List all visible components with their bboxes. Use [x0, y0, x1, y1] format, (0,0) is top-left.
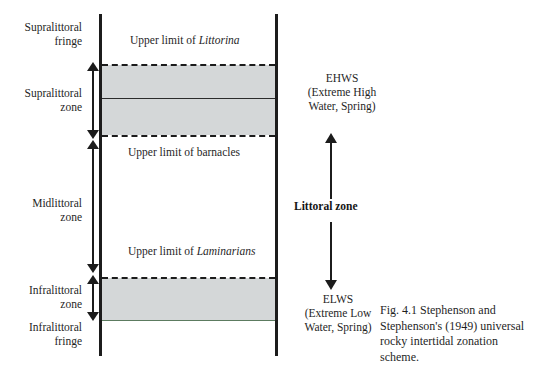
zone-label-infralittoral-zone-line2: zone [2, 297, 82, 311]
arrow-shaft [330, 142, 332, 199]
arrow-head-down-icon [87, 264, 99, 273]
arrow-shaft [92, 145, 94, 268]
zone-label-midlittoral-zone: Midlittoral zone [2, 196, 82, 224]
limit-laminarians-taxon: Laminarians [197, 245, 256, 257]
band-infralittoral [102, 278, 275, 320]
boundary-infralittoral-base [102, 320, 275, 321]
zone-label-infralittoral-zone: Infralittoral zone [2, 283, 82, 311]
label-upper-limit-littorina: Upper limit of Littorina [130, 34, 240, 46]
annotation-elws: ELWS (Extreme Low Water, Spring) [288, 292, 388, 334]
zone-label-midlittoral-zone-line2: zone [2, 210, 82, 224]
arrow-head-down-icon [87, 130, 99, 139]
arrow-up-icon-littoral-zone [324, 133, 337, 199]
arrow-shaft [92, 280, 94, 316]
zone-label-infralittoral-fringe-line2: fringe [2, 334, 82, 348]
zone-label-supralittoral-zone: Supralittoral zone [2, 86, 82, 114]
shore-profile-line-right [275, 14, 278, 356]
ehws-expansion-line2: Water, Spring) [292, 99, 392, 113]
arrow-head-down-icon [325, 280, 337, 290]
elws-abbreviation: ELWS [288, 292, 388, 306]
zone-label-supralittoral-zone-line1: Supralittoral [2, 86, 82, 100]
zone-label-midlittoral-zone-line1: Midlittoral [2, 196, 82, 210]
zone-label-supralittoral-fringe: Supralittoral fringe [2, 20, 82, 48]
arrow-shaft [92, 67, 94, 134]
arrow-down-icon-littoral-zone [324, 222, 337, 290]
arrow-shaft [330, 222, 332, 281]
annotation-ehws: EHWS (Extreme High Water, Spring) [292, 71, 392, 113]
boundary-upper-limit-laminarians [102, 277, 275, 279]
double-arrow-icon-supralittoral-zone [86, 62, 99, 139]
limit-littorina-prefix: Upper limit of [130, 34, 199, 46]
zone-label-supralittoral-fringe-line2: fringe [2, 34, 82, 48]
intertidal-zonation-figure: Upper limit of Littorina Upper limit of … [0, 0, 539, 384]
label-upper-limit-barnacles: Upper limit of barnacles [128, 146, 240, 158]
zone-label-supralittoral-fringe-line1: Supralittoral [2, 20, 82, 34]
elws-expansion-line2: Water, Spring) [288, 320, 388, 334]
boundary-upper-limit-barnacles [102, 135, 275, 137]
zone-label-infralittoral-fringe: Infralittoral fringe [2, 320, 82, 348]
zone-label-supralittoral-zone-line2: zone [2, 100, 82, 114]
double-arrow-icon-infralittoral-zone [86, 275, 99, 321]
band-supralittoral-upper [102, 65, 275, 98]
band-supralittoral-lower [102, 99, 275, 135]
boundary-upper-limit-littorina [102, 64, 275, 66]
zone-label-infralittoral-fringe-line1: Infralittoral [2, 320, 82, 334]
limit-laminarians-prefix: Upper limit of [128, 245, 197, 257]
limit-littorina-taxon: Littorina [199, 34, 240, 46]
zone-label-infralittoral-zone-line1: Infralittoral [2, 283, 82, 297]
boundary-supralittoral-internal [102, 98, 275, 99]
ehws-expansion-line1: (Extreme High [292, 85, 392, 99]
ehws-abbreviation: EHWS [292, 71, 392, 85]
double-arrow-icon-midlittoral-zone [86, 140, 99, 273]
label-littoral-zone: Littoral zone [294, 200, 358, 212]
arrow-head-down-icon [87, 312, 99, 321]
elws-expansion-line1: (Extreme Low [288, 306, 388, 320]
label-upper-limit-laminarians: Upper limit of Laminarians [128, 245, 255, 257]
figure-caption: Fig. 4.1 Stephenson and Stephenson's (19… [380, 303, 536, 365]
